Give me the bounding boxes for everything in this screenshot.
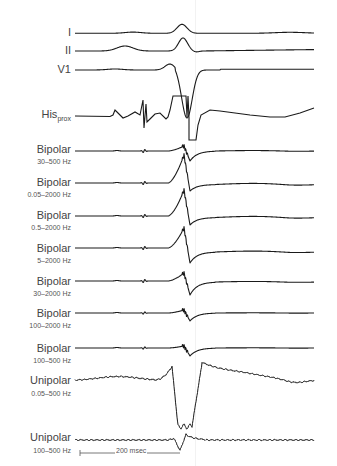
channel-label-unipolar-2: Unipolar: [30, 432, 71, 443]
trace-unipolar-2: [75, 434, 314, 451]
his-label-main: His: [41, 108, 57, 120]
channel-label-his: Hisprox: [41, 109, 71, 124]
channel-label-bipolar-5: Bipolar: [37, 276, 71, 287]
trace-his-prox: [75, 96, 314, 140]
channel-filter-bipolar-7: 100–500 Hz: [33, 357, 71, 365]
trace-lead-I: [75, 24, 314, 33]
channel-filter-bipolar-2: 0.05–2000 Hz: [27, 191, 71, 199]
trace-unipolar-1: [75, 362, 314, 429]
trace-lead-V1: [75, 64, 314, 118]
his-label-sub: prox: [57, 115, 71, 122]
trace-lead-II: [75, 38, 314, 52]
channel-label-II: II: [65, 45, 71, 56]
trace-bipolar-2: [75, 153, 314, 191]
trace-bipolar-6: [75, 308, 314, 321]
trace-bipolar-1: [75, 144, 314, 161]
channel-filter-bipolar-3: 0.5–2000 Hz: [31, 224, 71, 232]
channel-label-V1: V1: [58, 64, 71, 75]
channel-filter-bipolar-1: 30–500 Hz: [37, 158, 71, 166]
channel-label-bipolar-3: Bipolar: [37, 210, 71, 221]
channel-filter-unipolar-2: 100–500 Hz: [33, 447, 71, 455]
channel-filter-bipolar-4: 5–2000 Hz: [37, 257, 71, 265]
channel-label-bipolar-1: Bipolar: [37, 144, 71, 155]
channel-filter-bipolar-6: 100–2000 Hz: [29, 322, 71, 330]
channel-label-bipolar-2: Bipolar: [37, 177, 71, 188]
channel-label-I: I: [68, 27, 71, 38]
trace-bipolar-3: [75, 188, 314, 225]
trace-bipolar-4: [75, 226, 314, 263]
channel-label-bipolar-7: Bipolar: [37, 343, 71, 354]
channel-filter-bipolar-5: 30–2000 Hz: [33, 290, 71, 298]
channel-label-bipolar-6: Bipolar: [37, 308, 71, 319]
channel-filter-unipolar-1: 0.05–500 Hz: [31, 390, 71, 398]
trace-bipolar-5: [75, 271, 314, 295]
scale-bar-label: 200 msec: [115, 447, 147, 455]
trace-bipolar-7: [75, 344, 314, 356]
channel-label-bipolar-4: Bipolar: [37, 243, 71, 254]
channel-label-unipolar-1: Unipolar: [30, 375, 71, 386]
